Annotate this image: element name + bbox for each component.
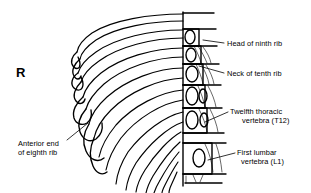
pedicle-oval-l1 [193,149,205,167]
pedicle-oval-t12-lower [186,111,198,129]
arch-line-10 [210,109,218,132]
pedicle-oval-t12 [186,87,198,105]
label-neck-of-tenth-rib-line1: Neck of tenth rib [227,69,282,78]
leader-line-twelfth-thoracic [205,112,228,122]
rib-arc-eleventh-lower [106,100,183,170]
rib-head-oval-tenth [186,48,196,62]
leader-line-head-ninth-rib [203,40,224,43]
anatomical-figure: R Anterior end of eighth rib Head of nin… [0,0,311,193]
rib-arc-lower-3 [154,152,179,193]
arch-line-2 [198,46,207,63]
anterior-rib-ends-group [72,52,107,174]
label-first-lumbar-vertebra-line2: vertebra (L1) [237,157,284,166]
arch-line-6 [206,65,214,84]
rib-arc-eleventh-upper [99,90,183,157]
label-neck-of-tenth-rib: Neck of tenth rib [227,69,282,78]
label-twelfth-thoracic-vertebra: Twelfth thoracic vertebra (T12) [230,107,290,125]
label-first-lumbar-vertebra: First lumbar vertebra (L1) [237,148,284,166]
rib-arc-eighth-lower [81,38,183,82]
label-anterior-end-of-eighth-rib: Anterior end of eighth rib [18,139,59,157]
arch-line-14 [200,175,203,182]
arch-line-8 [208,86,216,107]
vertebral-column-group [183,12,226,186]
label-anterior-end-of-eighth-rib-line1: Anterior end [18,139,59,148]
side-marker-right: R [16,66,25,79]
vertebral-body-l1 [183,143,212,174]
rib-arc-ninth-lower [86,57,183,109]
rib-arc-twelfth-upper [116,112,183,184]
arch-line-13 [193,175,196,182]
rib-head-oval-ninth [185,30,195,44]
label-anterior-end-of-eighth-rib-line2: of eighth rib [18,148,59,157]
anterior-tip-tenth-rib [84,124,104,160]
label-twelfth-thoracic-vertebra-line1: Twelfth thoracic [230,107,282,116]
label-twelfth-thoracic-vertebra-line2: vertebra (T12) [230,116,290,125]
rib-arc-eighth-upper [78,30,183,73]
arch-line-3 [203,47,211,63]
label-head-of-ninth-rib-line1: Head of ninth rib [227,39,282,48]
label-first-lumbar-vertebra-line1: First lumbar [237,148,277,157]
rib-arc-tenth-upper [89,68,183,124]
rib-arc-upper-2 [80,21,183,59]
pedicle-oval-t11 [186,66,198,82]
label-head-of-ninth-rib: Head of ninth rib [227,39,282,48]
